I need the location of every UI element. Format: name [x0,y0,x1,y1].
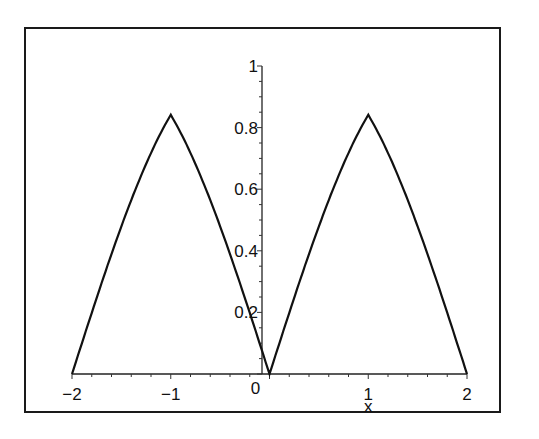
y-tick-label: 0.4 [234,242,258,261]
y-tick-label: 0.2 [234,303,258,322]
axis-ticks [72,66,467,379]
x-axis-label: x [364,397,373,416]
axes [72,66,467,374]
y-tick-label: 1 [249,57,258,76]
y-tick-label: 0.6 [234,180,258,199]
tick-labels: −2−10120.20.40.60.81 [62,57,471,404]
y-tick-label: 0.8 [234,119,258,138]
line-chart: −2−10120.20.40.60.81 x [0,0,539,439]
x-tick-label: −1 [161,385,180,404]
data-line [72,115,467,374]
x-tick-label: 2 [462,385,471,404]
x-tick-label: −2 [62,385,81,404]
x-tick-label: 0 [251,379,260,398]
